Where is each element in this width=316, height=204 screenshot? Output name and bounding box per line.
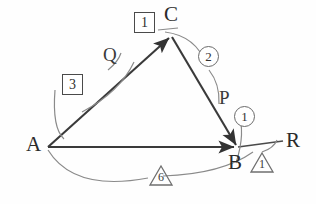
triangle-number-six-text: 6 bbox=[148, 171, 174, 183]
triangle-number-one: 1 bbox=[249, 151, 275, 174]
circled-number-two: 2 bbox=[198, 46, 219, 67]
arc-angle-a bbox=[54, 90, 64, 139]
arc-at-p bbox=[209, 70, 219, 104]
triangle-number-six: 6 bbox=[148, 164, 174, 187]
boxed-number-one: 1 bbox=[134, 12, 155, 33]
circled-number-one: 1 bbox=[234, 106, 255, 127]
point-label-r: R bbox=[286, 130, 300, 151]
boxed-number-three: 3 bbox=[62, 74, 83, 95]
triangle-number-one-text: 1 bbox=[249, 158, 275, 170]
vertex-label-a: A bbox=[26, 134, 41, 155]
point-label-p: P bbox=[219, 88, 230, 107]
arc-big-left bbox=[48, 150, 148, 182]
vertex-label-b: B bbox=[228, 152, 242, 173]
tick-at-c bbox=[158, 28, 178, 30]
point-label-q: Q bbox=[103, 45, 117, 64]
vertex-label-c: C bbox=[164, 4, 178, 25]
geometry-figure: A C B P Q R 1 3 2 1 1 6 bbox=[0, 0, 316, 204]
